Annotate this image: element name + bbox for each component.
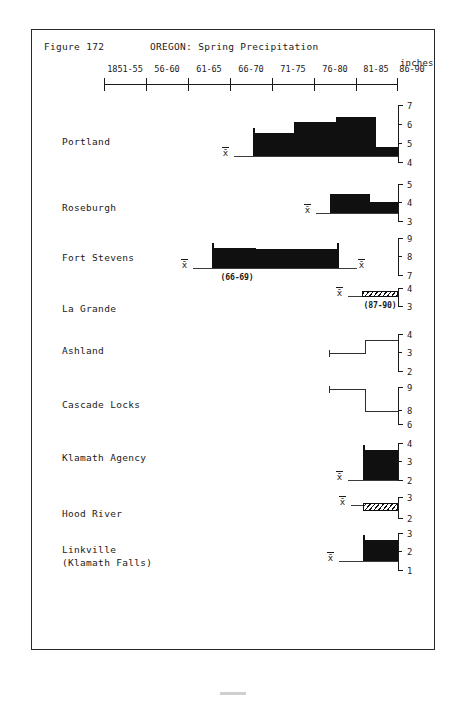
- scale-value: 2: [407, 368, 412, 377]
- bar-segment: [298, 249, 339, 268]
- bar-segment: [212, 248, 256, 268]
- scale-value: 2: [407, 477, 412, 486]
- station-label-roseburgh: Roseburgh: [62, 201, 116, 214]
- mean-baseline: [234, 156, 398, 157]
- station-label-klamath-agency: Klamath Agency: [62, 451, 146, 464]
- bar-segment: [370, 202, 398, 213]
- bar-riser: [363, 535, 365, 543]
- mean-marker-left: x̄: [181, 259, 188, 270]
- trace-segment: [365, 411, 398, 412]
- scale-value: 4: [407, 199, 412, 208]
- figure-title: OREGON: Spring Precipitation: [150, 41, 319, 52]
- bar-riser: [337, 243, 339, 251]
- station-label-ashland: Ashland: [62, 344, 104, 357]
- station-label-hood-river: Hood River: [62, 507, 122, 520]
- mean-baseline: [316, 213, 398, 214]
- scale-value: 8: [407, 253, 412, 262]
- scale-value: 4: [407, 440, 412, 449]
- period-note: (87-90): [363, 300, 396, 310]
- trace-segment: [329, 389, 366, 390]
- station-label-portland: Portland: [62, 135, 110, 148]
- scale-value: 4: [407, 285, 412, 294]
- bar-segment: [253, 133, 294, 156]
- scale-value: 2: [407, 548, 412, 557]
- trace-step: [365, 389, 366, 412]
- mean-marker-left: x̄: [339, 496, 346, 507]
- mean-marker-left: x̄: [336, 471, 343, 482]
- scale-value: 1: [407, 567, 412, 576]
- station-label-fort-stevens: Fort Stevens: [62, 251, 134, 264]
- trace-step: [365, 340, 366, 354]
- units-label: inches: [400, 58, 434, 68]
- bar-segment-hatched: [362, 291, 398, 297]
- station-label-linkville: Linkville: [62, 543, 116, 556]
- period-note: (66-69): [220, 272, 253, 282]
- bar-segment: [256, 249, 298, 268]
- bar-segment: [363, 540, 398, 561]
- bar-segment: [330, 194, 370, 213]
- bar-segment-hatched: [363, 503, 398, 511]
- bar-riser: [212, 243, 214, 250]
- scale-value: 3: [407, 494, 412, 503]
- scale-value: 3: [407, 458, 412, 467]
- scale-value: 3: [407, 303, 412, 312]
- scale-value: 9: [407, 384, 412, 393]
- mean-baseline: [348, 480, 398, 481]
- scale-value: 7: [407, 102, 412, 111]
- figure-number-label: Figure 172: [44, 41, 104, 52]
- scale-value: 4: [407, 159, 412, 168]
- mean-marker-left: x̄: [222, 147, 229, 158]
- bar-riser: [253, 128, 255, 136]
- scale-value: 6: [407, 421, 412, 430]
- scale-value: 3: [407, 218, 412, 227]
- trace-segment: [329, 353, 366, 354]
- scale-value: 4: [407, 331, 412, 340]
- bar-segment: [294, 122, 336, 156]
- mean-baseline: [193, 268, 357, 269]
- page-footer-mark: [220, 692, 246, 695]
- bar-riser: [363, 445, 365, 453]
- scale-value: 9: [407, 235, 412, 244]
- figure-page: Figure 172 OREGON: Spring Precipitation …: [0, 0, 467, 711]
- scale-value: 3: [407, 349, 412, 358]
- scale-value: 5: [407, 181, 412, 190]
- scale-value: 6: [407, 121, 412, 130]
- bar-segment: [336, 117, 376, 156]
- scale-value: 3: [407, 530, 412, 539]
- bar-segment: [376, 147, 398, 156]
- scale-value: 7: [407, 272, 412, 281]
- mean-baseline: [339, 561, 398, 562]
- bar-segment: [363, 450, 398, 480]
- scale-value: 8: [407, 407, 412, 416]
- station-label-linkville-alt: (Klamath Falls): [62, 556, 152, 569]
- trace-segment: [365, 340, 398, 341]
- mean-marker-left: x̄: [304, 204, 311, 215]
- scale-value: 5: [407, 140, 412, 149]
- mean-marker-left: x̄: [327, 552, 334, 563]
- station-label-la-grande: La Grande: [62, 302, 116, 315]
- mean-marker-right: x̄: [358, 259, 365, 270]
- station-label-cascade-locks: Cascade Locks: [62, 398, 140, 411]
- scale-value: 2: [407, 515, 412, 524]
- mean-marker-left: x̄: [336, 287, 343, 298]
